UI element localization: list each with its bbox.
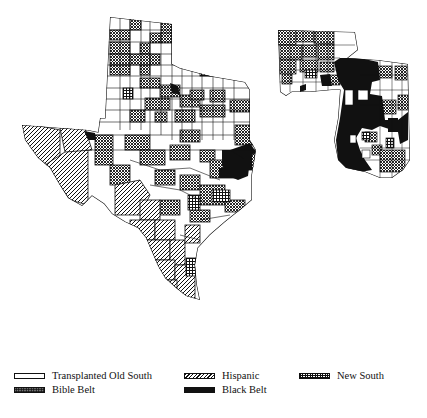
cultural-region-map [0,0,427,360]
legend-label: Black Belt [222,384,267,395]
transplanted-old-south-swatch [14,373,45,379]
legend-item-new-south: New South [299,370,384,381]
legend-item-transplanted-old-south: Transplanted Old South [14,370,152,381]
legend-label: Hispanic [222,370,259,381]
arkansas-louisiana-region [275,28,415,183]
legend-label: New South [337,370,384,381]
black-belt-swatch [184,387,215,393]
legend-item-bible-belt: Bible Belt [14,384,95,395]
texas-region [0,0,270,310]
hispanic-swatch [184,373,215,379]
legend-item-hispanic: Hispanic [184,370,259,381]
legend-item-black-belt: Black Belt [184,384,267,395]
map-legend: Transplanted Old South Hispanic New Sout… [14,370,424,410]
legend-label: Transplanted Old South [52,370,152,381]
bible-belt-swatch [14,387,45,393]
new-south-swatch [299,373,330,379]
legend-label: Bible Belt [52,384,95,395]
